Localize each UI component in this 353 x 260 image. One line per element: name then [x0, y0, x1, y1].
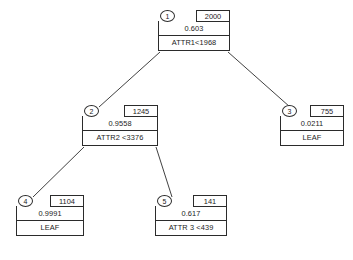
- tree-node-3[interactable]: 0.0211LEAF3755: [280, 105, 344, 147]
- node-body: 0.0211LEAF: [280, 116, 344, 146]
- tree-node-2[interactable]: 0.9558ATTR2 <337621245: [82, 105, 158, 147]
- node-id-badge[interactable]: 1: [160, 10, 175, 22]
- node-header: 41104: [16, 195, 84, 207]
- node-probability: 0.9991: [17, 207, 83, 221]
- node-count: 141: [193, 195, 227, 207]
- node-count: 755: [310, 105, 344, 117]
- tree-edge-2-4: [33, 147, 84, 197]
- tree-edge-1-3: [228, 52, 290, 107]
- node-split-condition: ATTR 3 <439: [156, 221, 226, 235]
- node-id-badge[interactable]: 3: [282, 105, 297, 117]
- node-count: 1104: [50, 195, 84, 207]
- tree-node-5[interactable]: 0.617ATTR 3 <4395141: [155, 195, 227, 237]
- node-id-badge[interactable]: 2: [84, 105, 99, 117]
- tree-node-1[interactable]: 0.603ATTR1<196812000: [158, 10, 230, 52]
- node-count: 1245: [124, 105, 158, 117]
- node-probability: 0.0211: [281, 117, 343, 131]
- node-probability: 0.9558: [83, 117, 157, 131]
- node-id-badge[interactable]: 4: [18, 195, 33, 207]
- node-header: 3755: [280, 105, 344, 117]
- node-body: 0.617ATTR 3 <439: [155, 206, 227, 236]
- node-split-condition: ATTR2 <3376: [83, 131, 157, 145]
- node-split-condition: ATTR1<1968: [159, 36, 229, 50]
- node-leaf-label: LEAF: [17, 221, 83, 235]
- tree-node-4[interactable]: 0.9991LEAF41104: [16, 195, 84, 237]
- node-probability: 0.603: [159, 22, 229, 36]
- tree-edge-2-5: [156, 147, 172, 197]
- node-probability: 0.617: [156, 207, 226, 221]
- node-id-badge[interactable]: 5: [157, 195, 172, 207]
- decision-tree-diagram: 0.603ATTR1<1968120000.9558ATTR2 <3376212…: [0, 0, 353, 260]
- node-body: 0.603ATTR1<1968: [158, 21, 230, 51]
- node-body: 0.9991LEAF: [16, 206, 84, 236]
- node-body: 0.9558ATTR2 <3376: [82, 116, 158, 146]
- node-count: 2000: [196, 10, 230, 22]
- tree-edge-1-2: [99, 52, 160, 107]
- node-leaf-label: LEAF: [281, 131, 343, 145]
